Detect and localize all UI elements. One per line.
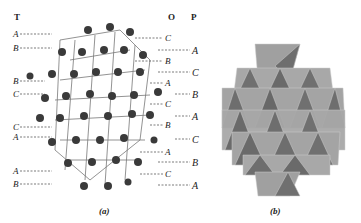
p-label: A [192,112,198,121]
left-label: C [13,123,19,132]
left-label: B [13,77,19,86]
caption-b: (b) [270,206,281,216]
p-label: C [192,68,199,77]
header-t: T [14,13,20,22]
p-label: A [192,181,198,190]
o-label: A [165,148,171,157]
figure-canvas [0,0,361,223]
p-label: C [192,135,199,144]
o-label: C [165,100,171,109]
p-label: B [192,158,198,167]
p-label: B [192,90,198,99]
header-p: P [191,13,197,22]
left-label: A [13,133,19,142]
o-label: B [165,57,171,66]
o-label: C [165,170,171,179]
left-label: B [13,44,19,53]
caption-a: (a) [99,206,110,216]
o-label: B [165,121,171,130]
header-o: O [168,13,175,22]
o-label: C [165,34,171,43]
left-label: A [13,30,19,39]
o-label: A [165,79,171,88]
p-label: A [192,46,198,55]
polyhedra-b [222,44,345,196]
left-label: B [13,180,19,189]
left-label: C [13,90,19,99]
left-label: A [13,167,19,176]
